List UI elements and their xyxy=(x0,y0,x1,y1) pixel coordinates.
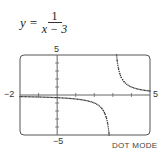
graph-screen xyxy=(0,0,167,162)
mode-label: DOT MODE xyxy=(112,141,157,150)
